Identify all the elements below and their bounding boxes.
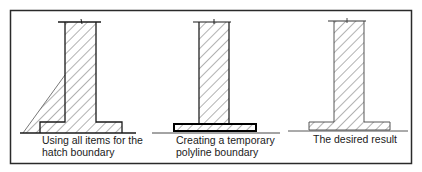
panel-all-items: [20, 19, 136, 133]
hatch-boundary-diagram: Using all items for the hatch boundary C…: [0, 0, 422, 172]
caption-line: polyline boundary: [176, 146, 275, 158]
wall-outline-right: [96, 22, 122, 133]
hatch-fill-overflow: [23, 22, 122, 133]
caption-all-items: Using all items for the hatch boundary: [42, 134, 143, 158]
caption-temporary-polyline: Creating a temporary polyline boundary: [176, 134, 275, 158]
panel-temporary-polyline: [152, 19, 280, 133]
caption-line: Creating a temporary: [176, 134, 275, 146]
hatch-fill: [309, 21, 390, 130]
caption-line: The desired result: [313, 133, 397, 145]
caption-line: Using all items for the: [42, 134, 143, 146]
panel-desired-result: [288, 18, 408, 131]
hatch-fill: [174, 22, 256, 131]
caption-desired-result: The desired result: [313, 133, 397, 145]
caption-line: hatch boundary: [42, 146, 143, 158]
